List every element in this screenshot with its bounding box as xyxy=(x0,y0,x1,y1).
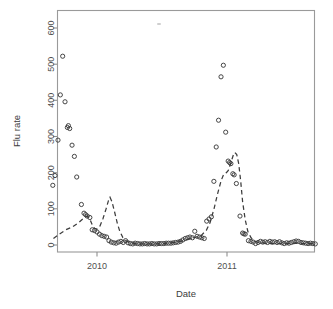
y-tick-label-0: 0 xyxy=(46,242,56,247)
y-tick-label-100: 100 xyxy=(46,201,56,216)
x-tick-labels: 2010 2011 xyxy=(87,261,237,271)
data-point xyxy=(75,175,79,179)
observed-points-layer xyxy=(51,54,318,246)
data-point xyxy=(234,181,238,185)
flu-rate-chart-figure: 0 100 200 300 400 500 600 2010 2011 Flu … xyxy=(0,0,333,309)
chart-canvas: 0 100 200 300 400 500 600 2010 2011 Flu … xyxy=(0,0,333,309)
data-point xyxy=(58,93,62,97)
x-axis-ticks xyxy=(97,252,227,257)
y-axis-label: Flu rate xyxy=(11,115,22,147)
x-tick-label-2010: 2010 xyxy=(87,261,107,271)
data-point xyxy=(193,229,197,233)
data-point xyxy=(212,179,216,183)
data-point xyxy=(216,118,220,122)
data-point xyxy=(214,145,218,149)
data-point xyxy=(72,154,76,158)
data-point xyxy=(79,202,83,206)
y-tick-label-300: 300 xyxy=(46,129,56,144)
x-tick-label-2011: 2011 xyxy=(217,261,236,271)
data-point xyxy=(219,75,223,79)
title-remnant-speck xyxy=(157,23,161,25)
data-point xyxy=(61,54,65,58)
data-point xyxy=(221,63,225,67)
y-tick-label-400: 400 xyxy=(46,93,56,108)
y-tick-label-600: 600 xyxy=(46,20,56,35)
y-tick-labels: 0 100 200 300 400 500 600 xyxy=(46,20,56,247)
data-point xyxy=(63,100,67,104)
data-point xyxy=(224,130,228,134)
y-tick-label-500: 500 xyxy=(46,57,56,72)
data-point xyxy=(51,183,55,187)
data-point xyxy=(70,143,74,147)
x-axis-label: Date xyxy=(176,288,196,299)
data-point xyxy=(238,214,242,218)
plot-frame xyxy=(58,11,315,253)
